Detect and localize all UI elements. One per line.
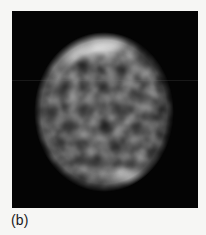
dark-void [95,119,113,137]
dark-void [55,81,73,99]
dark-void [108,138,124,154]
dark-void [60,120,76,136]
dark-void [130,122,146,138]
panel-caption: (b) [11,211,29,229]
dark-void [88,154,104,170]
dark-void [72,138,88,154]
dark-void [112,62,128,78]
dark-void [132,88,148,104]
image-panel [12,11,198,208]
figure-panel-b: (b) [0,0,206,235]
dark-void [123,157,137,171]
dark-void [44,104,60,120]
disk-content [12,11,198,208]
speckle-image [12,11,198,208]
dark-void [96,80,112,96]
dark-void [53,137,67,151]
dark-void [75,101,93,119]
dark-void [110,100,126,116]
